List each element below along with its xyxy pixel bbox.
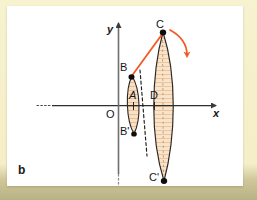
point-label-B: B xyxy=(120,62,127,73)
point-label-B-prime: B' xyxy=(120,126,129,137)
x-axis-label: x xyxy=(213,108,219,119)
diagram-stage: y x O C B A D B' C' b xyxy=(7,6,243,186)
point-label-A: A xyxy=(129,90,136,101)
point-label-C: C xyxy=(156,19,164,30)
point-marker-C xyxy=(160,30,166,36)
figure-frame: y x O C B A D B' C' b xyxy=(0,0,257,200)
point-marker-B xyxy=(129,74,135,80)
origin-label: O xyxy=(106,109,115,120)
rotation-arrow xyxy=(170,30,187,55)
dashed-center-line-small xyxy=(140,70,147,156)
point-marker-Bp xyxy=(131,131,137,136)
point-marker-Cp xyxy=(161,178,167,184)
panel-label: b xyxy=(18,164,25,176)
large-lens-ellipse xyxy=(154,32,174,181)
point-label-C-prime: C' xyxy=(149,172,159,183)
point-label-D: D xyxy=(150,90,158,101)
y-axis-label: y xyxy=(107,24,113,35)
figure-card: y x O C B A D B' C' b xyxy=(7,6,243,186)
diagram-svg xyxy=(7,6,243,186)
